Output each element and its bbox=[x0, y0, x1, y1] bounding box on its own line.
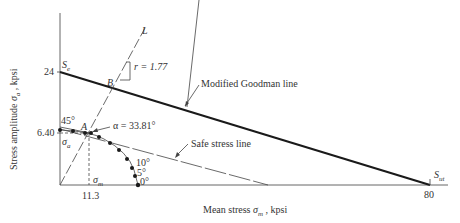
tick-label-113: 11.3 bbox=[82, 191, 99, 201]
alpha-arrowhead bbox=[92, 128, 98, 132]
goodman-leader bbox=[187, 0, 199, 107]
safe-stress-line-label: Safe stress line bbox=[191, 139, 251, 149]
angle-45-label: 45° bbox=[61, 116, 75, 126]
load-line-L bbox=[60, 28, 145, 185]
goodman-line-label: Modified Goodman line bbox=[201, 79, 298, 89]
label-Sut: Sut bbox=[434, 170, 444, 183]
label-Se: Se bbox=[62, 60, 70, 73]
angle-0-label: 0° bbox=[140, 177, 149, 187]
tick-label-24: 24 bbox=[44, 67, 54, 77]
x-axis-label: Mean stress σm , kpsi bbox=[203, 205, 287, 218]
tick-label-80: 80 bbox=[424, 190, 434, 200]
label-A: A bbox=[81, 122, 87, 132]
sigma-m-label: σm bbox=[93, 175, 103, 188]
tick-label-640: 6.40 bbox=[37, 128, 55, 138]
sigma-a-label: σa bbox=[62, 137, 70, 150]
alpha-label: α = 33.81° bbox=[113, 121, 155, 131]
goodman-diagram bbox=[0, 0, 460, 223]
y-axis-label: Stress amplitude σa , kpsi bbox=[8, 69, 22, 171]
label-L: L bbox=[142, 26, 148, 36]
slope-label: r = 1.77 bbox=[134, 62, 167, 72]
label-B: B bbox=[107, 78, 113, 88]
